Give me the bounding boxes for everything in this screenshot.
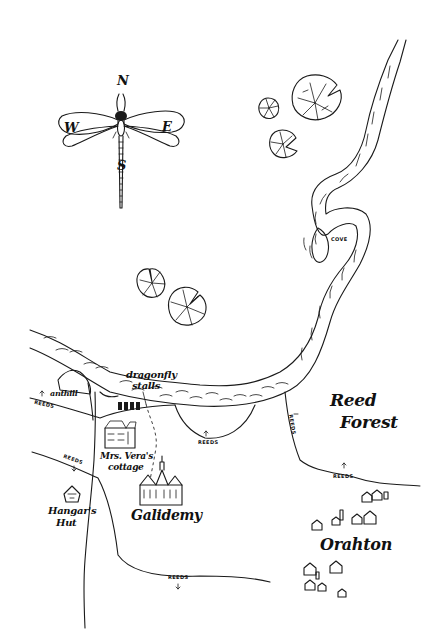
lily-pad-icon (292, 75, 341, 120)
dragonfly-stalls-label-line1: dragonfly (126, 370, 177, 380)
hangars-hut-label-line1: Hangar's (48, 506, 96, 516)
compass-east-label: E (162, 120, 172, 133)
reed-forest-label-line1: Reed (330, 392, 376, 409)
cove-label: COVE (331, 237, 348, 242)
lily-pad-icon (259, 98, 279, 119)
mrs-veras-cottage-label-line2: cottage (108, 463, 144, 472)
lily-pad-icon (137, 269, 165, 298)
compass-south-label: S (117, 159, 126, 172)
orahton-label: Orahton (320, 537, 392, 553)
compass-north-label: N (117, 74, 129, 87)
compass-west-label: W (64, 121, 79, 134)
lily-pad-icon (270, 130, 297, 158)
reeds-label-south: REEDS (168, 575, 188, 580)
river (30, 40, 406, 406)
reeds-label-center: REEDS (198, 440, 218, 445)
galidemy-label: Galidemy (131, 508, 202, 522)
hut-icon (64, 486, 80, 502)
dragonfly-stalls-label-line2: stalls (132, 381, 160, 391)
dragonfly-compass-icon (59, 94, 184, 208)
reed-forest-label-line2: Forest (340, 414, 398, 431)
ant-hill-label: anthill (50, 389, 78, 397)
reeds-marker-icon (40, 391, 346, 589)
hangars-hut-label-line2: Hut (56, 518, 76, 528)
mrs-veras-cottage-label-line1: Mrs. Vera's (100, 452, 153, 461)
cottage-icon (105, 421, 136, 448)
reeds-label-forest: REEDS (333, 474, 353, 479)
lily-pad-icon (169, 287, 207, 325)
castle-icon (140, 456, 182, 505)
